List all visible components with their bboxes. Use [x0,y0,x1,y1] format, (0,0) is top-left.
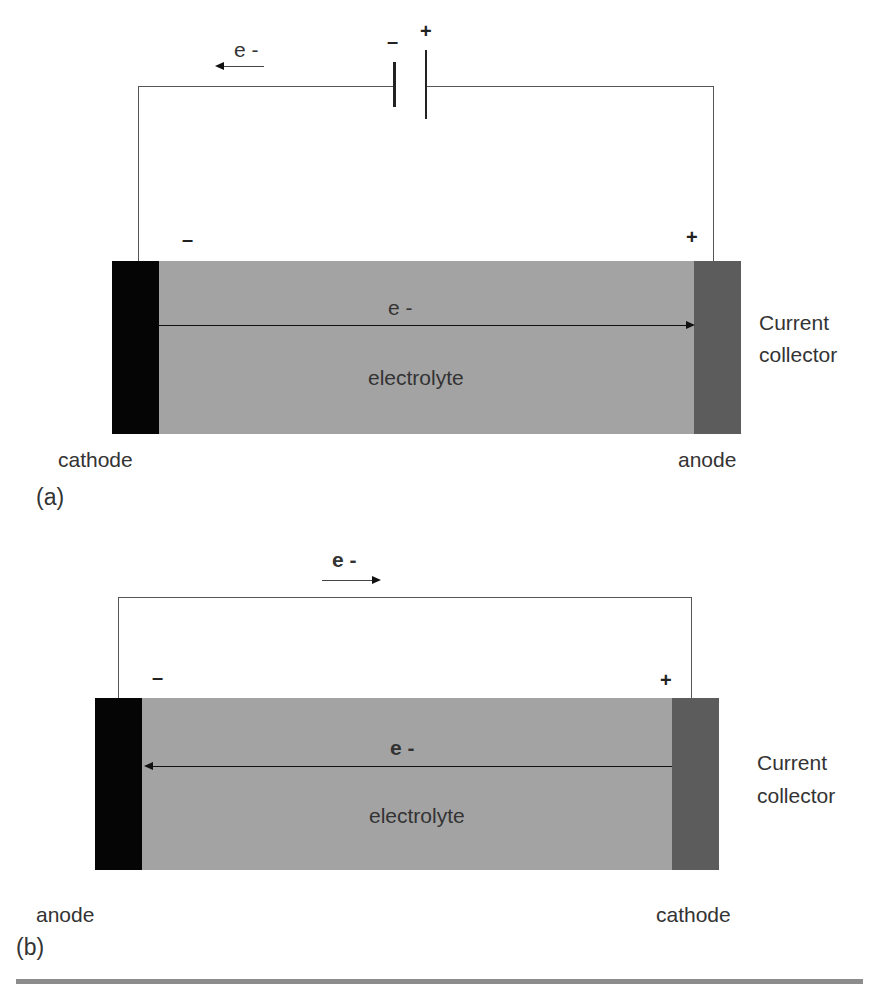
wire-left [138,86,139,261]
external-electron-label: e - [234,38,259,62]
internal-electron-arrow [152,766,672,767]
external-electron-label: e - [332,548,357,572]
left-electrode-label: anode [36,903,94,927]
right-electrode-label: cathode [656,903,731,927]
wire-top-right [426,86,714,87]
left-terminal-sign: – [182,228,193,251]
panel-label-a: (a) [36,484,64,511]
battery-negative-sign: – [387,30,398,53]
electrolyte-label: electrolyte [368,366,464,390]
wire-top-left [138,86,394,87]
internal-electron-arrow [159,325,686,326]
wire-right [691,597,692,698]
external-electron-arrow [322,580,372,581]
current-collector-label-line1: Current [757,751,827,775]
right-terminal-sign: + [686,226,698,249]
arrowhead-left-icon [215,62,224,70]
electrolyte-region [158,261,695,434]
left-electrode-label: cathode [58,448,133,472]
battery-positive-sign: + [420,20,432,43]
current-collector-label-line2: collector [759,343,837,367]
current-collector-label-line2: collector [757,784,835,808]
bottom-divider [16,979,863,984]
battery-negative-plate [393,62,396,107]
arrowhead-right-icon [372,576,381,584]
internal-electron-label: e - [390,736,415,760]
left-terminal-sign: – [152,666,163,689]
cathode-current-collector [672,698,719,870]
battery-positive-plate [425,50,427,119]
electrolyte-label: electrolyte [369,804,465,828]
wire-top [118,597,691,598]
arrowhead-right-icon [686,321,695,329]
cathode-electrode [112,261,159,434]
electrolyte-region [141,698,673,870]
anode-current-collector [694,261,741,434]
current-collector-label-line1: Current [759,311,829,335]
internal-electron-label: e - [388,296,413,320]
arrowhead-left-icon [144,762,153,770]
wire-right [713,86,714,261]
anode-electrode [95,698,142,870]
external-electron-arrow [222,66,264,67]
panel-label-b: (b) [16,934,44,961]
wire-left [118,597,119,698]
right-electrode-label: anode [678,448,736,472]
right-terminal-sign: + [660,669,672,692]
